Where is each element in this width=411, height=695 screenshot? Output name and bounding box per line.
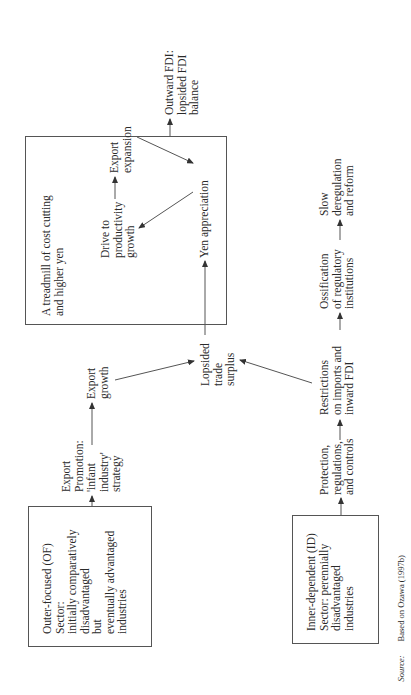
source-text: Based on Ozawa (1997b) [396,555,406,641]
export-expansion-node: Export expansion [108,126,133,173]
restrictions-node: Restrictions on imports and inward FDI [318,346,356,415]
ossification-node: Ossification of regulatory institutions [318,249,356,309]
inner-dependent-sector-box: Inner-dependent (ID) Sector: perennially… [292,515,379,644]
outer-focused-sector-box: Outer-focused (OF) Sector: initially com… [28,506,152,647]
export-promotion-node: Export Promotion: 'infant industry' stra… [60,440,123,492]
outward-fdi-node: Outward FDI: lopsided FDI balance [163,50,201,115]
source-note: Source:Based on Ozawa (1997b) [386,555,411,690]
lopsided-trade-surplus-node: Lopsided trade surplus [199,343,237,386]
treadmill-title: A treadmill of cost cutting and higher y… [40,195,65,316]
protection-node: Protection, regulations, and controls [318,438,356,495]
source-label: Source: [396,655,406,681]
outer-focused-sector-label: Outer-focused (OF) Sector: initially com… [41,530,129,634]
inner-dependent-sector-label: Inner-dependent (ID) Sector: perennially… [305,533,355,631]
export-growth-node: Export growth [85,366,110,399]
yen-appreciation-node: Yen appreciation [198,180,211,258]
slow-deregulation-node: Slow deregulation and reform [318,159,356,216]
drive-to-productivity-node: Drive to productivity growth [99,202,137,258]
